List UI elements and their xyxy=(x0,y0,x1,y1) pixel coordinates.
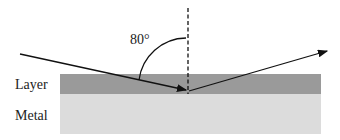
angle-label: 80° xyxy=(130,32,150,48)
layer-label: Layer xyxy=(15,77,48,93)
diagram-graphics xyxy=(0,0,340,140)
metal-substrate xyxy=(60,94,321,134)
reflection-diagram: 80° Layer Metal xyxy=(0,0,340,140)
metal-label: Metal xyxy=(15,108,48,124)
